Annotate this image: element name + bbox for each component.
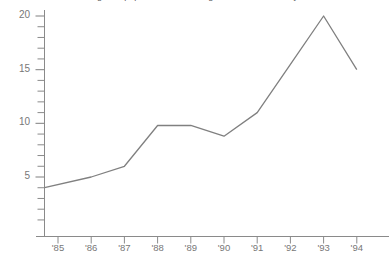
y-tick-label: 5 xyxy=(4,170,30,181)
plot-area xyxy=(0,0,391,269)
y-tick-label: 20 xyxy=(4,9,30,20)
x-tick-label: '94 xyxy=(342,242,372,253)
x-tick-label: '87 xyxy=(109,242,139,253)
x-tick-label: '91 xyxy=(242,242,272,253)
x-tick-label: '93 xyxy=(309,242,339,253)
y-axis-ticks xyxy=(36,16,45,220)
y-tick-label: 15 xyxy=(4,63,30,74)
x-tick-label: '89 xyxy=(176,242,206,253)
x-tick-label: '85 xyxy=(43,242,73,253)
x-tick-label: '86 xyxy=(76,242,106,253)
data-series-line xyxy=(45,16,357,188)
x-tick-label: '90 xyxy=(209,242,239,253)
line-chart: Changes in population at Eastridge Natio… xyxy=(0,0,391,269)
y-tick-label: 10 xyxy=(4,116,30,127)
x-tick-label: '88 xyxy=(143,242,173,253)
x-tick-label: '92 xyxy=(275,242,305,253)
